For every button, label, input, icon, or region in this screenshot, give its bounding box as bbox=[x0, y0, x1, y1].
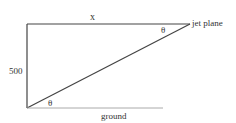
ground-label: ground bbox=[101, 111, 127, 121]
hypotenuse-line bbox=[27, 24, 190, 108]
right-triangle-diagram: x jet plane 500 θ θ ground bbox=[0, 0, 236, 123]
jet-plane-label: jet plane bbox=[191, 18, 223, 28]
top-side-label: x bbox=[90, 11, 95, 22]
angle-top-label: θ bbox=[161, 25, 165, 35]
height-label: 500 bbox=[9, 66, 23, 76]
angle-bottom-label: θ bbox=[48, 98, 52, 108]
